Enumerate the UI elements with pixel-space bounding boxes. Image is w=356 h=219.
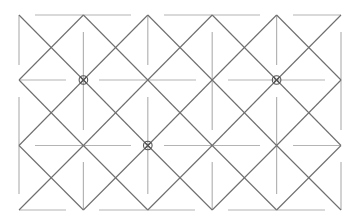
- diagonal-lines: [19, 15, 341, 210]
- diamond-lattice-diagram: [0, 0, 356, 219]
